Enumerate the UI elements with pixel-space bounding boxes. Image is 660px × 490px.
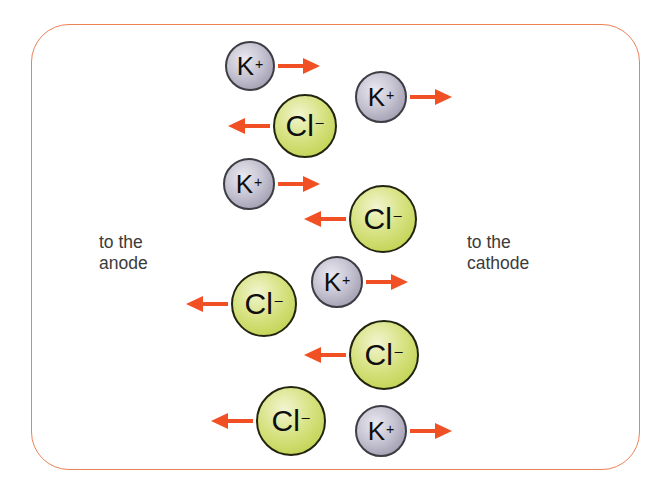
arrow-head — [435, 423, 452, 439]
arrow-head — [211, 413, 228, 429]
arrow-head — [304, 211, 321, 227]
ion-symbol: Cl− — [364, 204, 403, 234]
cathode-label-line1: to the — [467, 232, 529, 253]
arrow-left-icon — [186, 296, 228, 312]
arrow-shaft — [203, 302, 228, 306]
ion-charge: + — [254, 174, 262, 190]
ion-charge: − — [394, 343, 404, 361]
arrow-head — [304, 347, 321, 363]
ion-charge: − — [315, 114, 325, 132]
cathode-label-line2: cathode — [467, 253, 529, 274]
ion-symbol: K+ — [368, 84, 395, 110]
ion-charge: − — [301, 409, 311, 427]
anode-label-line2: anode — [99, 253, 148, 274]
ion-migration-diagram: to the anode to the cathode K+K+Cl−K+Cl−… — [0, 0, 660, 490]
ion-k-plus: K+ — [311, 256, 363, 308]
ion-k-plus: K+ — [223, 158, 275, 210]
ion-symbol: Cl− — [245, 289, 284, 319]
ion-symbol: K+ — [236, 171, 263, 197]
arrow-head — [435, 89, 452, 105]
ion-charge: − — [274, 292, 284, 310]
arrow-head — [303, 58, 320, 74]
arrow-right-icon — [366, 274, 408, 290]
ion-k-plus: K+ — [355, 71, 407, 123]
ion-charge: + — [342, 272, 350, 288]
anode-label-line1: to the — [99, 232, 148, 253]
arrow-shaft — [278, 182, 303, 186]
ion-cl-minus: Cl− — [349, 185, 417, 253]
arrow-head — [303, 176, 320, 192]
ion-charge: − — [393, 207, 403, 225]
ion-symbol: K+ — [368, 418, 395, 444]
anode-label: to the anode — [99, 232, 148, 274]
ion-k-plus: K+ — [355, 405, 407, 457]
arrow-shaft — [245, 124, 270, 128]
arrow-head — [228, 118, 245, 134]
ion-symbol: Cl− — [272, 406, 311, 436]
ion-k-plus: K+ — [225, 41, 275, 91]
arrow-left-icon — [228, 118, 270, 134]
ion-charge: + — [386, 421, 394, 437]
arrow-shaft — [410, 429, 435, 433]
ion-symbol: K+ — [237, 53, 264, 79]
cathode-label: to the cathode — [467, 232, 529, 274]
ion-charge: + — [386, 87, 394, 103]
ion-charge: + — [255, 56, 263, 72]
ion-symbol: Cl− — [286, 111, 325, 141]
arrow-shaft — [410, 95, 435, 99]
arrow-head — [186, 296, 203, 312]
arrow-right-icon — [410, 423, 452, 439]
ion-symbol: Cl− — [365, 340, 404, 370]
arrow-right-icon — [278, 58, 320, 74]
arrow-right-icon — [410, 89, 452, 105]
arrow-left-icon — [211, 413, 253, 429]
arrow-left-icon — [304, 347, 346, 363]
arrow-shaft — [228, 419, 253, 423]
arrow-left-icon — [304, 211, 346, 227]
arrow-shaft — [321, 217, 346, 221]
ion-cl-minus: Cl− — [231, 271, 297, 337]
ion-cl-minus: Cl− — [349, 320, 419, 390]
arrow-shaft — [366, 280, 391, 284]
ion-cl-minus: Cl− — [256, 386, 326, 456]
ion-symbol: K+ — [324, 269, 351, 295]
arrow-shaft — [278, 64, 303, 68]
arrow-shaft — [321, 353, 346, 357]
ion-cl-minus: Cl− — [273, 94, 337, 158]
arrow-right-icon — [278, 176, 320, 192]
arrow-head — [391, 274, 408, 290]
